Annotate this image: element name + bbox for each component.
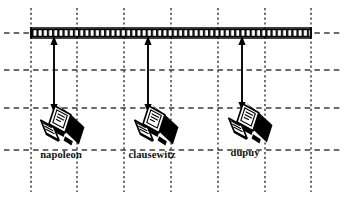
host-label-clausewitz: clausewitz xyxy=(128,149,175,160)
network-topology-diagram: napoleonclausewitzdupuy xyxy=(0,0,347,197)
bus-cable-segment xyxy=(31,30,311,37)
diagram-canvas: napoleonclausewitzdupuy xyxy=(0,0,347,197)
host-node-napoleon[interactable]: napoleon xyxy=(36,36,88,160)
host-label-napoleon: napoleon xyxy=(40,149,82,160)
desktop-computer-icon-clausewitz[interactable] xyxy=(130,101,182,148)
bus-cable xyxy=(31,27,311,39)
host-nodes: napoleonclausewitzdupuy xyxy=(36,36,276,160)
desktop-computer-icon-dupuy[interactable] xyxy=(224,99,276,146)
host-node-dupuy[interactable]: dupuy xyxy=(224,36,276,158)
host-label-dupuy: dupuy xyxy=(230,147,260,158)
host-node-clausewitz[interactable]: clausewitz xyxy=(128,36,182,160)
